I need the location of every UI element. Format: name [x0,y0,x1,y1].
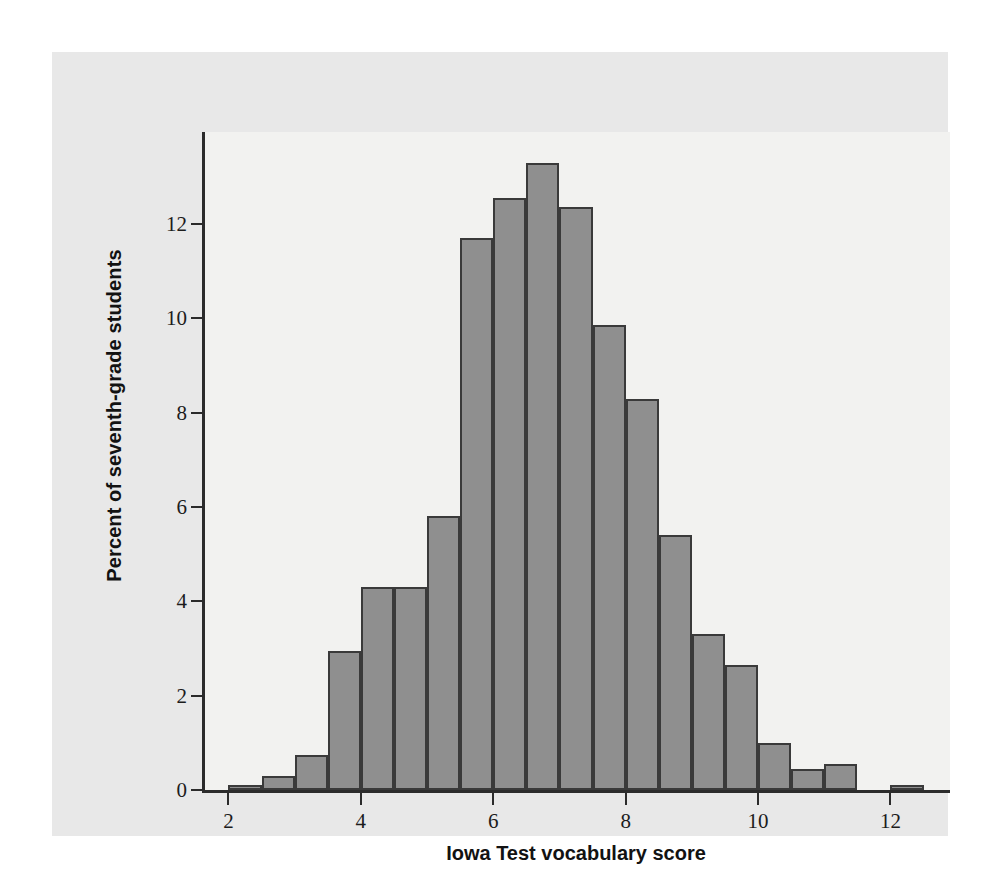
x-tick-label-12: 12 [860,809,920,834]
x-tick-2 [227,793,229,805]
y-tick-12 [191,223,202,225]
y-tick-label-6: 6 [153,495,187,520]
x-tick-label-4: 4 [331,809,391,834]
y-tick-8 [191,412,202,414]
histogram-bar [692,634,725,790]
y-axis-line [202,132,205,793]
histogram-bar [626,399,659,790]
x-axis-line [202,790,950,793]
y-tick-label-10: 10 [153,306,187,331]
histogram-bar [725,665,758,790]
histogram-bar [593,325,626,790]
histogram-bar [493,198,526,790]
y-tick-10 [191,317,202,319]
x-tick-label-10: 10 [728,809,788,834]
histogram-bar [659,535,692,790]
x-tick-label-2: 2 [198,809,258,834]
x-tick-10 [757,793,759,805]
y-tick-2 [191,695,202,697]
y-tick-0 [191,789,202,791]
x-axis-title: Iowa Test vocabulary score [202,842,950,865]
histogram-bar [295,755,328,790]
histogram-bar [460,238,493,790]
histogram-bar [890,785,923,790]
histogram-bar [526,163,559,790]
histogram-bar [791,769,824,790]
x-tick-label-6: 6 [463,809,523,834]
histogram-bar [427,516,460,790]
x-tick-12 [889,793,891,805]
y-tick-label-8: 8 [153,401,187,426]
histogram-bar [824,764,857,790]
histogram-bar [328,651,361,790]
y-tick-4 [191,600,202,602]
y-axis-title: Percent of seventh-grade students [103,186,126,646]
figure-page: 024681012 24681012 Percent of seventh-gr… [0,0,995,875]
histogram-bar [361,587,394,790]
x-tick-label-8: 8 [596,809,656,834]
y-tick-label-0: 0 [153,778,187,803]
x-tick-8 [625,793,627,805]
y-tick-6 [191,506,202,508]
figure-panel: 024681012 24681012 Percent of seventh-gr… [52,52,948,836]
x-tick-4 [360,793,362,805]
histogram-bar [559,207,592,790]
y-tick-label-12: 12 [153,212,187,237]
y-tick-label-2: 2 [153,684,187,709]
histogram-bar [262,776,295,790]
histogram-bar [228,785,261,790]
y-tick-label-4: 4 [153,589,187,614]
histogram-bar [394,587,427,790]
histogram-bar [758,743,791,790]
x-tick-6 [492,793,494,805]
